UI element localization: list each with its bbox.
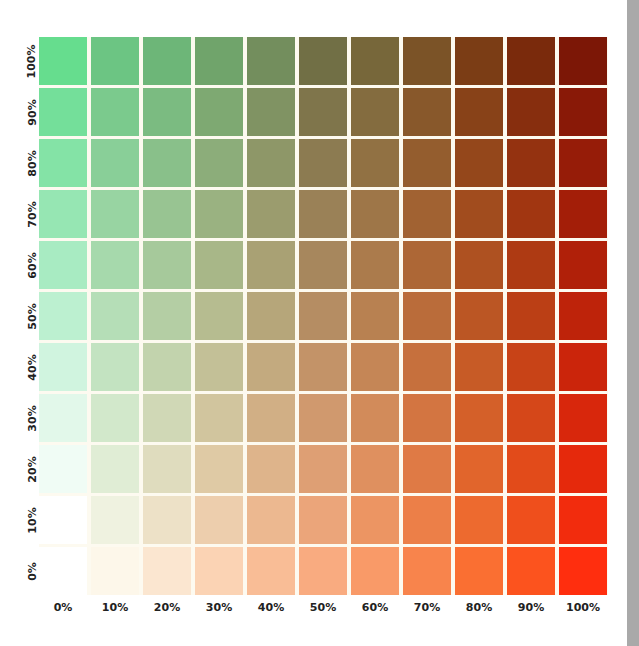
- x-axis-label: 30%: [195, 601, 243, 614]
- color-cell: [91, 547, 139, 595]
- scrollbar[interactable]: [627, 0, 639, 646]
- color-cell: [559, 343, 607, 391]
- color-cell: [403, 445, 451, 493]
- y-axis-label: 40%: [22, 343, 42, 391]
- y-axis-label: 20%: [22, 445, 42, 493]
- color-cell: [39, 37, 87, 85]
- color-cell: [195, 292, 243, 340]
- color-cell: [39, 343, 87, 391]
- color-cell: [195, 343, 243, 391]
- color-cell: [507, 139, 555, 187]
- x-axis-label: 10%: [91, 601, 139, 614]
- color-cell: [403, 343, 451, 391]
- color-cell: [195, 547, 243, 595]
- color-cell: [507, 190, 555, 238]
- color-cell: [299, 139, 347, 187]
- color-cell: [91, 190, 139, 238]
- color-cell: [299, 241, 347, 289]
- color-cell: [351, 343, 399, 391]
- color-cell: [351, 190, 399, 238]
- color-cell: [299, 394, 347, 442]
- color-cell: [195, 241, 243, 289]
- color-cell: [143, 292, 191, 340]
- x-axis-label: 60%: [351, 601, 399, 614]
- color-cell: [559, 547, 607, 595]
- color-cell: [39, 394, 87, 442]
- color-cell: [91, 445, 139, 493]
- color-cell: [559, 496, 607, 544]
- color-cell: [91, 241, 139, 289]
- color-cell: [143, 139, 191, 187]
- color-cell: [507, 37, 555, 85]
- color-cell: [195, 88, 243, 136]
- y-axis-label: 90%: [22, 88, 42, 136]
- color-cell: [403, 88, 451, 136]
- color-cell: [403, 241, 451, 289]
- color-cell: [507, 394, 555, 442]
- color-cell: [559, 88, 607, 136]
- x-axis-label: 50%: [299, 601, 347, 614]
- color-cell: [91, 343, 139, 391]
- x-axis-label: 80%: [455, 601, 503, 614]
- color-cell: [507, 445, 555, 493]
- color-cell: [507, 88, 555, 136]
- color-cell: [455, 37, 503, 85]
- color-cell: [91, 139, 139, 187]
- color-cell: [559, 139, 607, 187]
- y-axis-label: 80%: [22, 139, 42, 187]
- color-cell: [143, 496, 191, 544]
- color-cell: [39, 547, 87, 595]
- color-cell: [351, 445, 399, 493]
- color-cell: [247, 241, 295, 289]
- color-cell: [247, 343, 295, 391]
- color-cell: [299, 292, 347, 340]
- color-cell: [91, 37, 139, 85]
- color-cell: [455, 394, 503, 442]
- color-cell: [403, 37, 451, 85]
- color-cell: [299, 190, 347, 238]
- y-axis-label: 50%: [22, 292, 42, 340]
- color-cell: [195, 139, 243, 187]
- color-cell: [39, 139, 87, 187]
- x-axis-label: 100%: [559, 601, 607, 614]
- color-cell: [559, 190, 607, 238]
- color-cell: [351, 88, 399, 136]
- color-cell: [455, 343, 503, 391]
- color-cell: [299, 37, 347, 85]
- color-cell: [455, 547, 503, 595]
- x-axis-label: 20%: [143, 601, 191, 614]
- color-cell: [507, 241, 555, 289]
- color-cell: [247, 37, 295, 85]
- color-cell: [507, 343, 555, 391]
- color-cell: [143, 445, 191, 493]
- color-cell: [195, 37, 243, 85]
- color-cell: [39, 88, 87, 136]
- color-cell: [455, 496, 503, 544]
- color-cell: [455, 190, 503, 238]
- color-cell: [143, 88, 191, 136]
- x-axis-label: 40%: [247, 601, 295, 614]
- color-cell: [91, 394, 139, 442]
- color-cell: [351, 394, 399, 442]
- color-cell: [455, 445, 503, 493]
- color-cell: [559, 241, 607, 289]
- color-cell: [507, 292, 555, 340]
- color-cell: [247, 139, 295, 187]
- y-axis-label: 10%: [22, 496, 42, 544]
- color-cell: [403, 496, 451, 544]
- color-cell: [351, 547, 399, 595]
- color-cell: [455, 88, 503, 136]
- color-cell: [39, 241, 87, 289]
- color-cell: [351, 37, 399, 85]
- color-cell: [299, 88, 347, 136]
- color-cell: [299, 547, 347, 595]
- color-cell: [39, 292, 87, 340]
- color-cell: [143, 241, 191, 289]
- color-cell: [247, 190, 295, 238]
- color-cell: [559, 292, 607, 340]
- color-cell: [351, 292, 399, 340]
- color-cell: [455, 292, 503, 340]
- y-axis-label: 30%: [22, 394, 42, 442]
- color-cell: [247, 292, 295, 340]
- color-cell: [195, 445, 243, 493]
